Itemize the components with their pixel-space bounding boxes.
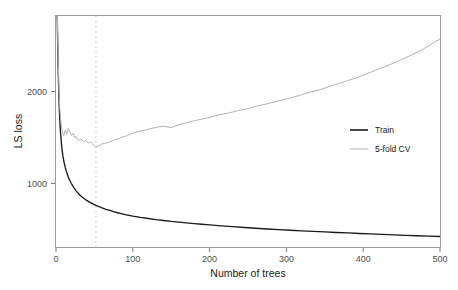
- chart-figure: 0100200300400500 10002000 Number of tree…: [0, 0, 458, 290]
- legend-label-train: Train: [375, 125, 394, 135]
- x-axis: 0100200300400500: [53, 248, 447, 264]
- legend-label-5-fold-cv: 5-fold CV: [375, 144, 411, 154]
- x-tick-label: 100: [125, 254, 140, 264]
- x-tick-label: 0: [53, 254, 58, 264]
- y-tick-label: 2000: [27, 87, 47, 97]
- y-axis: 10002000: [27, 87, 55, 189]
- x-axis-title: Number of trees: [210, 267, 285, 279]
- y-axis-title: LS loss: [12, 114, 24, 148]
- x-tick-label: 400: [356, 254, 371, 264]
- x-tick-label: 500: [432, 254, 447, 264]
- x-tick-label: 300: [279, 254, 294, 264]
- y-tick-label: 1000: [27, 179, 47, 189]
- x-tick-label: 200: [202, 254, 217, 264]
- loss-vs-trees-chart: 0100200300400500 10002000 Number of tree…: [0, 0, 458, 290]
